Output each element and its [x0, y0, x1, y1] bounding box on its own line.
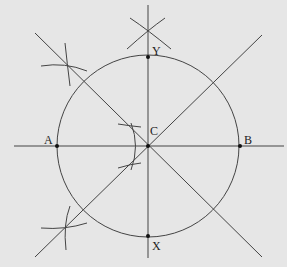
point-c: [146, 144, 150, 148]
arc-upper-left-2: [65, 43, 70, 86]
point-x: [146, 234, 150, 238]
point-a: [55, 144, 59, 148]
label-b: B: [244, 134, 252, 146]
label-c: C: [150, 125, 158, 137]
arc-near-c-lower: [118, 163, 141, 168]
arc-lower-left-2: [65, 206, 70, 250]
point-b: [238, 144, 242, 148]
label-y: Y: [152, 45, 161, 57]
arc-top-2: [130, 18, 171, 49]
label-a: A: [44, 134, 53, 146]
label-x: X: [152, 240, 161, 252]
arc-lower-left-1: [41, 223, 87, 228]
diagram-canvas: A B C Y X: [0, 0, 287, 267]
arc-upper-left-1: [41, 65, 87, 71]
point-y: [146, 55, 150, 59]
